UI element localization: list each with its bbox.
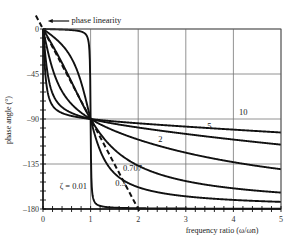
x-tick-label: 2 (136, 215, 140, 224)
curve-label: 5 (207, 121, 211, 131)
phase-response-chart: 0123450–45–90–135–180 ζ = 0.010.30.70725… (0, 0, 295, 247)
curve-label: 2 (158, 134, 162, 144)
y-tick-label: –180 (22, 205, 39, 214)
y-tick-label: –135 (22, 160, 39, 169)
y-tick-label: 0 (35, 25, 39, 34)
curve-label: 10 (239, 107, 248, 117)
y-tick-label: –45 (26, 70, 39, 79)
x-tick-label: 1 (89, 215, 93, 224)
curve-label: ζ = 0.01 (60, 181, 87, 191)
x-tick-label: 4 (231, 215, 235, 224)
phase-curve-zeta-5 (43, 29, 281, 145)
x-tick-label: 3 (184, 215, 188, 224)
x-axis-title: frequency ratio (ω/ωn) (186, 226, 259, 235)
arrow-head-icon (48, 19, 53, 23)
curve-label: 0.707 (123, 163, 142, 173)
y-tick-label: –90 (26, 115, 39, 124)
y-axis-title: phase angle (°) (4, 96, 13, 144)
x-tick-label: 0 (41, 215, 45, 224)
phase-curve-zeta-2 (43, 29, 281, 169)
curve-label: 0.3 (115, 178, 126, 188)
phase-linearity-annotation: phase linearity (72, 15, 123, 25)
x-tick-label: 5 (279, 215, 283, 224)
